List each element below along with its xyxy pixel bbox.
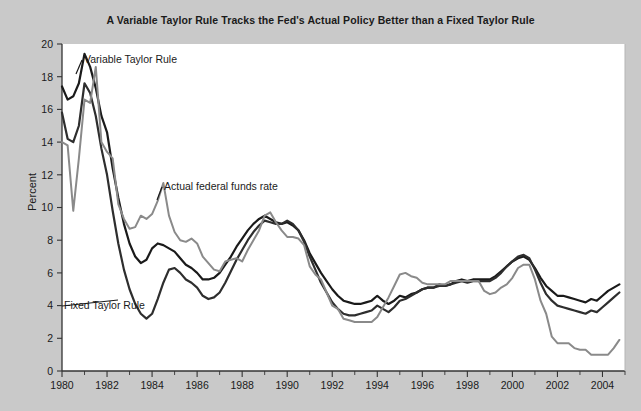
plot-background bbox=[62, 44, 625, 371]
figure-container: A Variable Taylor Rule Tracks the Fed's … bbox=[0, 0, 641, 411]
x-tick-label: 1986 bbox=[185, 379, 209, 391]
x-tick-label: 1980 bbox=[50, 379, 74, 391]
y-tick-label: 16 bbox=[41, 103, 53, 115]
chart-svg: 0246810121416182019801982198419861988199… bbox=[0, 0, 641, 411]
x-tick-label: 1988 bbox=[230, 379, 254, 391]
y-tick-label: 14 bbox=[41, 136, 53, 148]
x-tick-label: 2002 bbox=[546, 379, 570, 391]
y-tick-label: 20 bbox=[41, 38, 53, 50]
x-tick-label: 1998 bbox=[456, 379, 480, 391]
x-tick-label: 1996 bbox=[411, 379, 435, 391]
y-tick-label: 0 bbox=[47, 365, 53, 377]
plot-area: 0246810121416182019801982198419861988199… bbox=[0, 0, 641, 411]
y-tick-label: 10 bbox=[41, 201, 53, 213]
x-tick-label: 2000 bbox=[501, 379, 525, 391]
x-tick-label: 1982 bbox=[95, 379, 119, 391]
y-tick-label: 2 bbox=[47, 332, 53, 344]
y-tick-label: 12 bbox=[41, 169, 53, 181]
y-tick-label: 6 bbox=[47, 267, 53, 279]
x-tick-label: 1992 bbox=[321, 379, 345, 391]
series-annotation: Actual federal funds rate bbox=[164, 180, 278, 192]
x-tick-label: 2004 bbox=[591, 379, 615, 391]
x-tick-label: 1990 bbox=[276, 379, 300, 391]
x-tick-label: 1994 bbox=[366, 379, 390, 391]
series-annotation: Variable Taylor Rule bbox=[84, 53, 177, 65]
y-tick-label: 8 bbox=[47, 234, 53, 246]
y-axis-label: Percent bbox=[26, 152, 38, 232]
x-tick-label: 1984 bbox=[140, 379, 164, 391]
y-tick-label: 18 bbox=[41, 71, 53, 83]
y-tick-label: 4 bbox=[47, 299, 53, 311]
